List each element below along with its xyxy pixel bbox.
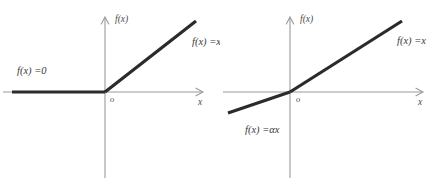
leaky-relu-x-axis-label: x [417,97,423,107]
leaky-relu-positive-segment [290,21,402,92]
relu-y-axis-label: f(x) [115,14,128,25]
relu-negative-label: f(x) =0 [17,65,47,77]
leaky-relu-negative-label: f(x) =αx [245,124,280,136]
relu-positive-label: f(x) =x [192,36,220,48]
leaky-relu-positive-label: f(x) =x [397,35,426,47]
leaky-relu-panel: f(x) =αx f(x) =x f(x) x o [220,0,440,185]
leaky-relu-y-axis-label: f(x) [300,14,313,25]
relu-x-axis-label: x [197,97,203,107]
activation-functions-figure: f(x) =0 f(x) =x f(x) x o f(x) =αx f(x) =… [0,0,440,185]
relu-positive-segment [105,21,196,92]
relu-panel: f(x) =0 f(x) =x f(x) x o [0,0,220,185]
leaky-relu-origin-label: o [296,94,300,104]
relu-origin-label: o [110,94,114,104]
leaky-relu-negative-segment [228,92,290,113]
